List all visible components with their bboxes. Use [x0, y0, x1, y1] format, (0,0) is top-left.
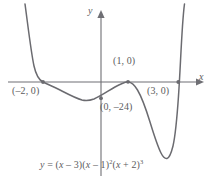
polynomial-curve — [25, 4, 185, 159]
x-axis-label: x — [199, 72, 203, 82]
equation-eq: = ( — [45, 159, 59, 170]
marker-y-intercept — [99, 96, 103, 100]
y-axis-arrowhead — [97, 10, 104, 18]
y-intercept-label: (0, –24) — [100, 102, 132, 112]
y-axis-label: y — [88, 6, 92, 16]
root-label-neg-two: (–2, 0) — [12, 86, 39, 96]
equation-part-2: – 3)( — [63, 159, 85, 170]
equation-part-4: – 1) — [90, 159, 109, 170]
equation-part-7: + 2) — [120, 159, 139, 170]
marker-root-one — [126, 80, 130, 84]
root-label-one: (1, 0) — [113, 56, 135, 66]
equation-exponent-3: 3 — [140, 158, 143, 165]
polynomial-graph-figure: y x (–2, 0) (1, 0) (3, 0) (0, –24) y = (… — [0, 0, 211, 180]
equation-caption: y = (x – 3)(x – 1)2(x + 2)3 — [40, 160, 143, 170]
marker-root-three — [176, 80, 180, 84]
root-label-three: (3, 0) — [147, 86, 169, 96]
marker-root-neg2 — [41, 80, 45, 84]
